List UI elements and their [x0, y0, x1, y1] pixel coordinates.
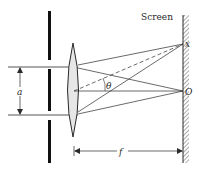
- point-x-label: x: [185, 39, 190, 49]
- angle-label: θ: [106, 81, 112, 91]
- dimension-a-label: a: [17, 87, 22, 97]
- point-o-label: O: [185, 87, 193, 97]
- refracted-rays: [74, 44, 183, 114]
- slit-barrier: [48, 11, 51, 163]
- dimension-f-label: f: [118, 147, 124, 157]
- angle-arc: [103, 78, 105, 91]
- screen-label: Screen: [141, 12, 173, 22]
- diffraction-diagram: θ Screen x O a f: [0, 0, 199, 170]
- dimension-f: [74, 146, 182, 156]
- central-ray-theta: [74, 44, 183, 91]
